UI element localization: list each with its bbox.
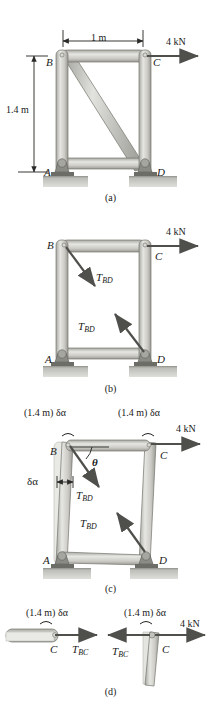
force-tbd-upper-arrow	[66, 247, 95, 286]
dimension-width-label: 1 m	[91, 33, 106, 43]
joint-label-d: D	[157, 167, 165, 178]
load-label-4kn: 4 kN	[176, 424, 196, 434]
joint-label-b: B	[46, 57, 53, 68]
load-label-4kn-right: 4 kN	[180, 619, 200, 629]
virtual-displacement-label-c: (1.4 m) δα	[118, 408, 160, 418]
member-ab	[56, 240, 68, 362]
member-bc	[62, 50, 145, 62]
pin-b	[60, 53, 64, 57]
joint-label-c: C	[153, 57, 160, 68]
subfigure-left	[6, 622, 97, 643]
force-label-tbd-lower: TBD	[80, 518, 97, 531]
ground-right	[129, 366, 177, 377]
joint-label-a: A	[43, 555, 50, 566]
load-label-4kn: 4 kN	[166, 227, 186, 237]
force-subscript: BC	[118, 650, 128, 659]
member-ad	[62, 348, 145, 359]
load-label-4kn: 4 kN	[166, 37, 186, 47]
panel-tag-c: (c)	[0, 583, 221, 594]
theta-label: θ	[92, 457, 98, 468]
joint-label-c: C	[160, 450, 167, 461]
panel-b: 4 kN B C A D TBD TBD (b)	[0, 208, 221, 400]
joint-label-b: B	[50, 446, 57, 457]
virtual-displacement-label-b: (1.4 m) δα	[24, 408, 66, 418]
force-subscript: BD	[84, 325, 95, 334]
brace-left	[40, 622, 52, 625]
pin-b	[62, 243, 66, 247]
panel-tag-b: (b)	[0, 383, 221, 394]
ground-left	[43, 366, 88, 377]
joint-label-d: D	[159, 555, 167, 566]
panel-tag-d: (d)	[0, 686, 221, 697]
member-bd	[64, 55, 146, 171]
member-cd	[139, 50, 151, 172]
panel-a: 1 m 1.4 m 4 kN B C A D (a)	[0, 0, 221, 208]
force-label-tbc-left: TBC	[72, 644, 88, 657]
force-subscript: BD	[86, 522, 97, 531]
delta-alpha-label: δα	[27, 476, 38, 487]
pin-c	[147, 443, 151, 447]
joint-label-c-right: C	[162, 644, 169, 655]
joint-label-a: A	[45, 354, 52, 365]
virtual-displacement-label-right: (1.4 m) δα	[124, 608, 166, 618]
dimension-height-label: 1.4 m	[6, 105, 29, 115]
force-label-tbd-upper: TBD	[76, 490, 93, 503]
panel-tag-a: (a)	[0, 192, 221, 203]
member-bc	[62, 240, 145, 252]
panel-b-drawing	[0, 208, 221, 400]
ground-right	[129, 176, 177, 187]
pin-c	[143, 53, 147, 57]
ground-left	[43, 568, 91, 579]
brace-right	[140, 622, 152, 625]
member-ad	[62, 552, 146, 565]
force-label-tbd-upper: TBD	[96, 272, 113, 285]
member-ab	[56, 50, 68, 172]
joint-label-b: B	[47, 240, 54, 251]
joint-label-a: A	[44, 167, 51, 178]
force-label-tbd-lower: TBD	[78, 321, 95, 334]
brace-c	[142, 434, 154, 437]
force-subscript: BC	[78, 648, 88, 657]
member-cd	[139, 240, 151, 362]
pin-b	[66, 443, 70, 447]
panel-c: (1.4 m) δα (1.4 m) δα 4 kN B C A D δα θ …	[0, 400, 221, 600]
panel-a-drawing	[0, 0, 221, 208]
force-label-tbc-right: TBC	[112, 646, 128, 659]
joint-label-c: C	[155, 251, 162, 262]
joint-label-c-left: C	[50, 644, 57, 655]
pin-c	[143, 243, 147, 247]
force-subscript: BD	[82, 494, 93, 503]
member-bc-ghost	[6, 632, 54, 641]
force-subscript: BD	[102, 276, 113, 285]
brace-b	[62, 434, 74, 437]
member-ad	[62, 158, 145, 169]
ground-right	[130, 568, 178, 579]
panel-d: (1.4 m) δα C TBC (1.4 m) δα 4 kN C TBC (…	[0, 600, 221, 704]
virtual-displacement-label-left: (1.4 m) δα	[26, 608, 68, 618]
member-bc	[66, 440, 150, 451]
joint-label-d: D	[157, 354, 165, 365]
